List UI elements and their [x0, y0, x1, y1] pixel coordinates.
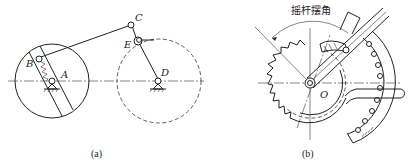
mechanism-diagram: A B C D E (a) 摇杆摆角 [0, 0, 417, 164]
pin-a [49, 78, 55, 84]
hole [378, 74, 383, 79]
rocker-swing-angle-title: 摇杆摆角 [291, 4, 331, 16]
guard-dashed-arc [286, 50, 346, 118]
pin-e-inner [137, 38, 142, 43]
rocker-pin [343, 47, 349, 53]
adjust-plate-end [347, 133, 353, 143]
ground-support-d [153, 84, 163, 89]
coupler-link-bc [41, 25, 131, 57]
rocker-link-ed [139, 43, 158, 79]
adjust-holes [356, 42, 383, 133]
cover-plate [340, 12, 360, 34]
caption-a: (a) [91, 148, 102, 160]
hole [356, 128, 361, 133]
hole [378, 86, 383, 91]
figure-b: 摇杆摆角 [255, 4, 405, 160]
hole [363, 119, 368, 124]
slot-edge-left [29, 52, 62, 116]
label-o: O [320, 89, 328, 100]
figure-a: A B C D E (a) [8, 12, 204, 160]
hole [376, 63, 381, 68]
caption-b: (b) [302, 148, 314, 160]
hole [370, 109, 375, 114]
pin-c [128, 22, 134, 28]
label-e: E [123, 39, 132, 50]
label-c: C [135, 12, 143, 23]
hole [372, 52, 377, 57]
pin-d [155, 78, 161, 84]
adjust-plate-outer-arc [353, 31, 395, 143]
hole [367, 42, 372, 47]
ground-support-a [47, 84, 57, 89]
radial-line-left [255, 27, 310, 83]
label-a: A [60, 69, 68, 80]
pivot-o-inner [308, 81, 313, 86]
label-b: B [25, 58, 33, 69]
label-d: D [160, 67, 169, 78]
